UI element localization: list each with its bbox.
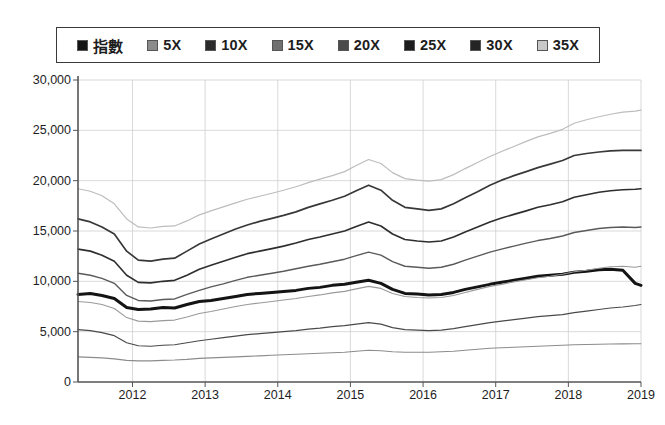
x-axis-label: 2017 <box>472 388 520 402</box>
series-line-10X <box>78 304 641 346</box>
x-axis-label: 2014 <box>254 388 302 402</box>
y-axis-label: 15,000 <box>7 224 71 238</box>
x-axis-label: 2012 <box>108 388 156 402</box>
x-axis-label: 2016 <box>399 388 447 402</box>
y-axis-label: 25,000 <box>7 123 71 137</box>
series-line-35X <box>78 110 641 228</box>
chart-container: 指數5X10X15X20X25X30X35X 05,00010,00015,00… <box>0 0 665 425</box>
plot-area: 05,00010,00015,00020,00025,00030,0002012… <box>0 0 665 425</box>
chart-plot-svg <box>0 0 665 425</box>
x-axis-label: 2019 <box>617 388 665 402</box>
series-line-25X <box>78 189 641 283</box>
series-line-5X <box>78 344 641 361</box>
y-axis-label: 30,000 <box>7 73 71 87</box>
x-axis-label: 2013 <box>181 388 229 402</box>
x-axis-label: 2015 <box>326 388 374 402</box>
y-axis-label: 20,000 <box>7 174 71 188</box>
x-axis-label: 2018 <box>544 388 592 402</box>
y-axis-label: 5,000 <box>7 325 71 339</box>
y-axis-label: 10,000 <box>7 274 71 288</box>
series-line-30X <box>78 150 641 261</box>
series-line-20X <box>78 227 641 301</box>
y-axis-label: 0 <box>7 375 71 389</box>
